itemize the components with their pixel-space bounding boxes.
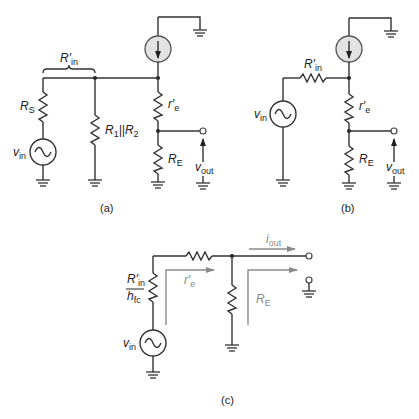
- ground-icon: [146, 372, 160, 378]
- ground-icon: [36, 180, 50, 186]
- re-resistor-c: [228, 285, 236, 314]
- rin-label-b: R′in: [304, 57, 322, 73]
- r1r2-resistor: [91, 115, 99, 145]
- ground-terminal-c: [306, 277, 312, 283]
- vin-label-b: vin: [254, 107, 267, 123]
- iout-label: iout: [266, 232, 282, 248]
- re-resistor-a: [154, 145, 162, 174]
- re-label-a: RE: [168, 152, 183, 168]
- vin-label-a: vin: [13, 145, 26, 161]
- ground-icon: [225, 345, 239, 351]
- circuit-diagram: R′in RS vin R1||R2: [0, 0, 419, 419]
- re-prime-resistor-a: [154, 92, 162, 121]
- re-prime-label-c: r′e: [184, 273, 195, 289]
- caption-c: (c): [221, 394, 234, 406]
- r1r2-label: R1||R2: [105, 123, 139, 139]
- ground-icon: [196, 183, 210, 189]
- ground-icon: [88, 180, 102, 186]
- ground-icon: [193, 30, 207, 36]
- rin-over-hfc-label: R′in hfc: [126, 272, 145, 305]
- vout-label-a: vout: [195, 160, 214, 176]
- panel-c: R′in hfc vin r′e RE iout: [123, 232, 316, 406]
- ground-icon: [151, 182, 165, 188]
- rin-label-a: R′in: [60, 51, 78, 67]
- caption-a: (a): [100, 202, 113, 214]
- re-label-b: RE: [359, 152, 374, 168]
- rin-over-hfc-resistor: [149, 273, 157, 302]
- ground-icon: [276, 180, 290, 186]
- re-resistor-b: [345, 146, 353, 175]
- vout-label-b: vout: [386, 160, 405, 176]
- svg-text:R′in: R′in: [127, 272, 145, 288]
- svg-text:hfc: hfc: [127, 289, 141, 305]
- re-label-c: RE: [256, 292, 271, 308]
- rin-brace: [43, 65, 95, 73]
- ground-icon: [387, 183, 401, 189]
- re-prime-label-a: r′e: [168, 97, 179, 113]
- output-terminal-b: [391, 128, 397, 134]
- ground-icon: [342, 183, 356, 189]
- rin-resistor-b: [300, 74, 326, 82]
- rs-label: RS: [20, 99, 35, 115]
- re-prime-resistor-b: [345, 94, 353, 123]
- output-terminal-c: [306, 253, 312, 259]
- ground-icon: [302, 291, 316, 297]
- output-terminal-a: [200, 128, 206, 134]
- panel-a: R′in RS vin R1||R2: [13, 17, 214, 214]
- re-prime-label-b: r′e: [359, 99, 370, 115]
- rs-resistor: [39, 92, 47, 122]
- panel-b: R′in vin: [254, 18, 405, 214]
- vin-label-c: vin: [123, 336, 136, 352]
- ground-icon: [384, 31, 398, 37]
- series-resistor-c: [186, 252, 212, 260]
- caption-b: (b): [341, 202, 354, 214]
